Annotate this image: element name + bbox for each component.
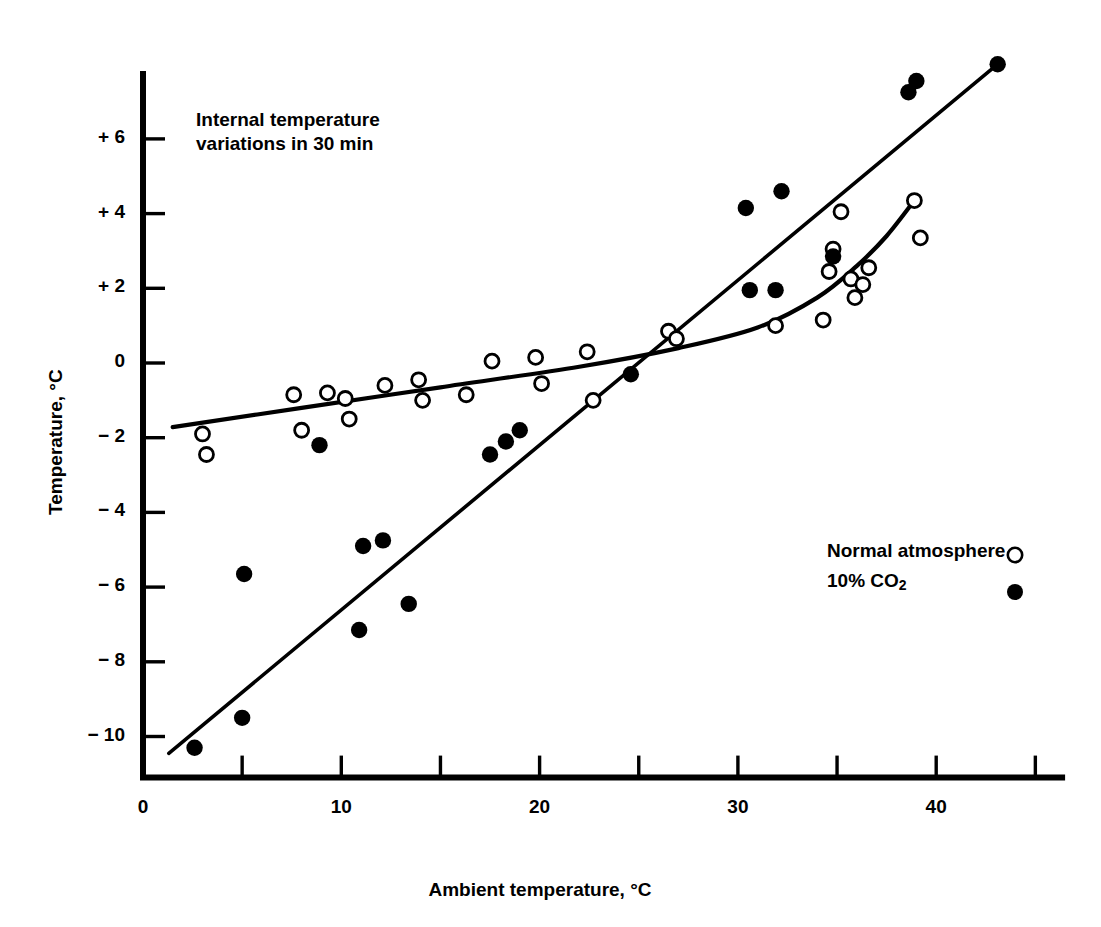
legend-item-co2: 10% CO2: [827, 570, 907, 593]
legend-label-normal-atmosphere: Normal atmosphere: [827, 540, 1005, 561]
chart-annotation: Internal temperaturevariations in 30 min: [196, 108, 380, 157]
legend-item-normal-atmosphere: Normal atmosphere: [827, 540, 1005, 562]
y-tick-label: − 6: [55, 574, 125, 596]
y-tick-label: − 8: [55, 649, 125, 671]
x-tick-label: 20: [510, 796, 570, 818]
trend-lines: [169, 64, 998, 753]
legend-marker-filled-circle-icon: [1004, 581, 1028, 605]
annotation-line-1: Internal temperature: [196, 109, 380, 130]
y-tick-label: 0: [55, 350, 125, 372]
y-tick-label: − 4: [55, 499, 125, 521]
y-tick-label: + 4: [55, 201, 125, 223]
x-tick-label: 0: [113, 796, 173, 818]
x-tick-label: 30: [708, 796, 768, 818]
y-tick-label: − 2: [55, 425, 125, 447]
x-tick-label: 40: [906, 796, 966, 818]
legend-label-co2-subscript: 2: [899, 577, 907, 593]
chart-figure: Internal temperaturevariations in 30 min…: [0, 0, 1101, 927]
legend-marker-open-circle-icon: [1004, 544, 1028, 568]
legend-label-co2: 10% CO: [827, 570, 899, 591]
x-tick-label: 10: [311, 796, 371, 818]
annotation-line-2: variations in 30 min: [196, 133, 373, 154]
y-tick-label: − 10: [55, 724, 125, 746]
y-tick-label: + 2: [55, 275, 125, 297]
axis-ticks: [143, 139, 1035, 778]
x-axis-label: Ambient temperature, °C: [380, 878, 700, 902]
y-tick-label: + 6: [55, 126, 125, 148]
axes: [140, 71, 1065, 778]
plot-area: [0, 0, 1101, 927]
